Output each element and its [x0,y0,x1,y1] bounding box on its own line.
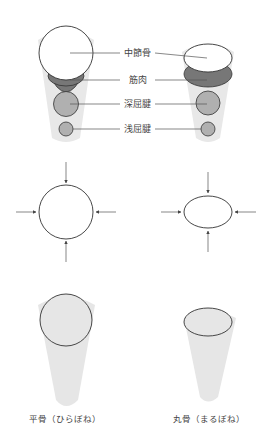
left-round-section [39,185,93,239]
label-superficial-flexor-tendon: 浅屈腱 [124,123,151,134]
hoof-diagram: 中節骨 筋肉 深屈腱 浅屈腱 平骨（ひらぼね） 丸骨 [0,0,273,437]
round-bone [184,308,236,402]
flat-bone [38,294,95,406]
label-middle-phalanx: 中節骨 [124,47,151,58]
right-oval-section [184,196,232,228]
label-deep-flexor-tendon: 深屈腱 [124,98,151,109]
left-superficial-flexor-tendon [59,122,73,136]
right-middle-phalanx [184,44,232,72]
right-superficial-flexor-tendon [201,122,215,136]
caption-round-bone: 丸骨（まるぼね） [173,414,245,424]
left-compression [16,162,116,262]
right-cross-section [182,44,234,142]
left-cross-section [38,26,94,142]
round-bone-section [184,308,232,336]
right-deep-flexor-tendon [196,91,220,115]
flat-bone-section [40,294,92,346]
right-compression [161,172,256,252]
caption-flat-bone: 平骨（ひらぼね） [29,414,101,424]
label-muscle: 筋肉 [129,74,147,85]
